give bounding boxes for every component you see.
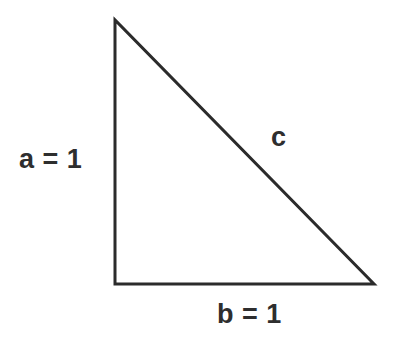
diagram-canvas: a = 1 b = 1 c — [0, 0, 396, 340]
leg-b-label: b = 1 — [217, 301, 282, 328]
hypotenuse-c-label: c — [271, 124, 287, 151]
leg-a-label: a = 1 — [19, 146, 82, 173]
